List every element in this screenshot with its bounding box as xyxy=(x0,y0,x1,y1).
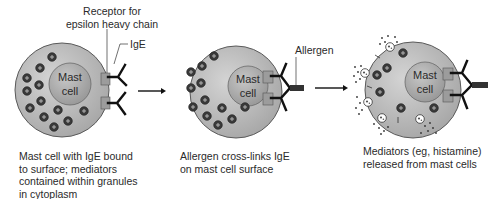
arrow-2 xyxy=(315,85,348,91)
arrow-1 xyxy=(138,88,166,94)
panel-1-mast-cell: Mast cell xyxy=(15,29,128,137)
panel-3-caption: Mediators (eg, histamine) released from … xyxy=(363,145,481,170)
allergen-callout-label: Allergen xyxy=(295,44,334,57)
cell-label: Mast xyxy=(413,69,437,81)
allergen xyxy=(290,85,304,91)
panel-3-mast-cell-degranulating: Mast cell xyxy=(353,35,488,138)
nucleus xyxy=(228,66,268,106)
panel-2-mast-cell: Mast cell xyxy=(187,46,304,138)
panel-2-caption: Allergen cross-links IgE on mast cell su… xyxy=(180,150,290,175)
ige-antibody xyxy=(108,65,126,114)
nucleus xyxy=(49,63,91,105)
cell-label: cell xyxy=(240,87,257,99)
receptor xyxy=(101,73,110,85)
allergen xyxy=(472,82,488,88)
cell-label: cell xyxy=(417,83,434,95)
cell-label: cell xyxy=(62,85,79,97)
panel-1-caption: Mast cell with IgE bound to surface; med… xyxy=(19,150,138,199)
receptor-callout-label: Receptor for epsilon heavy chain xyxy=(62,5,162,30)
ige-callout-label: IgE xyxy=(130,38,146,51)
nucleus xyxy=(405,62,445,102)
cell-label: Mast xyxy=(58,71,82,83)
cell-label: Mast xyxy=(236,73,260,85)
